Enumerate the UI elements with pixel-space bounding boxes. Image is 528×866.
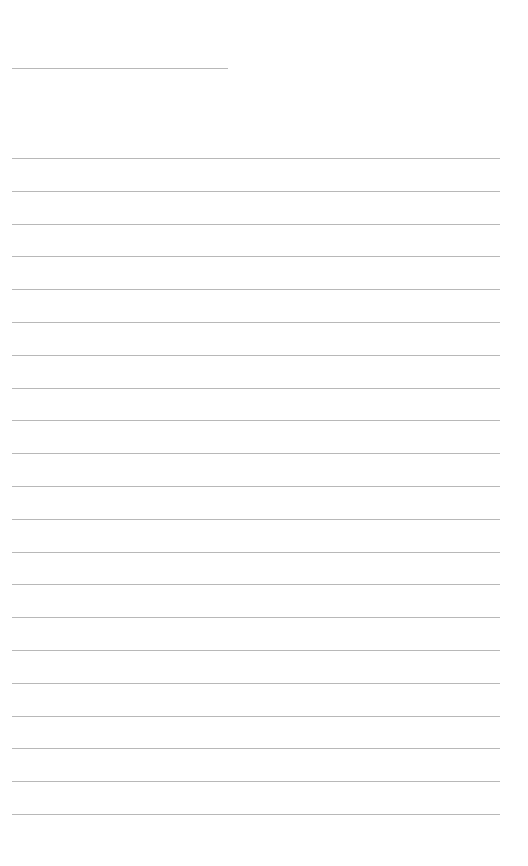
ruled-line (12, 388, 500, 389)
ruled-line (12, 256, 500, 257)
ruled-line (12, 814, 500, 815)
ruled-line (12, 158, 500, 159)
ruled-line (12, 650, 500, 651)
ruled-line (12, 355, 500, 356)
ruled-line (12, 322, 500, 323)
ruled-line (12, 486, 500, 487)
title-write-line (12, 68, 228, 69)
ruled-line (12, 781, 500, 782)
ruled-line (12, 748, 500, 749)
ruled-line (12, 683, 500, 684)
ruled-line (12, 420, 500, 421)
ruled-line (12, 519, 500, 520)
ruled-line (12, 716, 500, 717)
ruled-line (12, 289, 500, 290)
ruled-line (12, 453, 500, 454)
ruled-line (12, 584, 500, 585)
ruled-line (12, 191, 500, 192)
ruled-line (12, 617, 500, 618)
ruled-line (12, 552, 500, 553)
ruled-line (12, 224, 500, 225)
